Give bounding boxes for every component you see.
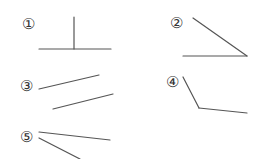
- line-figures-canvas: [0, 0, 254, 159]
- figure-2: [183, 18, 247, 56]
- figure-4-segment-2: [199, 108, 247, 113]
- figure-4-segment-1: [183, 77, 199, 108]
- figure-4-label: ④: [166, 75, 179, 90]
- figure-2-segment-1: [193, 18, 247, 56]
- figure-5-label: ⑤: [20, 130, 33, 145]
- figure-1: [39, 17, 111, 49]
- figure-5-segment-2: [39, 138, 80, 159]
- figure-3-label: ③: [20, 79, 33, 94]
- figure-5-segment-1: [39, 132, 110, 140]
- figure-3-segment-1: [39, 75, 99, 89]
- figure-2-label: ②: [170, 16, 183, 31]
- figure-5: [39, 132, 110, 159]
- figure-1-label: ①: [22, 17, 35, 32]
- figure-3: [39, 75, 113, 109]
- figure-4: [183, 77, 247, 113]
- figure-3-segment-2: [53, 94, 113, 109]
